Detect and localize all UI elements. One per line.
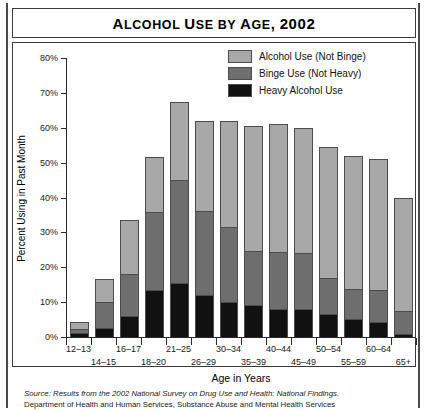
x-axis-tick-label: 16–17 xyxy=(116,344,141,354)
bar-slot xyxy=(92,58,117,337)
source-line-1: Source: Results from the 2002 National S… xyxy=(24,388,414,399)
bar-segment-alcohol-not-binge xyxy=(146,158,163,211)
y-axis-tick-label: 40% xyxy=(40,193,58,203)
bar[interactable] xyxy=(294,128,313,337)
bar-slot xyxy=(192,58,217,337)
bar-segment-binge-not-heavy xyxy=(171,180,188,283)
legend-swatch-heavy xyxy=(228,84,252,97)
bar-segment-heavy xyxy=(270,309,287,338)
bar-segment-heavy xyxy=(221,302,238,337)
x-axis-tick xyxy=(416,338,417,345)
legend-label: Binge Use (Not Heavy) xyxy=(259,68,361,79)
bar-segment-heavy xyxy=(320,314,337,337)
bar[interactable] xyxy=(95,279,114,337)
legend-item: Binge Use (Not Heavy) xyxy=(228,67,408,80)
bar-segment-heavy xyxy=(96,328,113,337)
bar[interactable] xyxy=(195,121,214,337)
bar-segment-alcohol-not-binge xyxy=(245,127,262,251)
bar-segment-alcohol-not-binge xyxy=(171,103,188,180)
bar-segment-binge-not-heavy xyxy=(196,211,213,295)
x-axis-tick-label: 21–25 xyxy=(166,344,191,354)
page-title: ALCOHOL USE BY AGE, 2002 xyxy=(113,15,316,32)
bar-segment-alcohol-not-binge xyxy=(196,122,213,211)
x-axis-labels-row-top: 12–1316–1721–2530–3440–4450–5460–64 xyxy=(66,344,416,356)
bar-segment-heavy xyxy=(121,316,138,337)
x-axis-tick-label: 55–59 xyxy=(341,357,366,367)
bar[interactable] xyxy=(220,121,239,337)
bar-segment-heavy xyxy=(295,309,312,338)
bar-segment-binge-not-heavy xyxy=(320,278,337,313)
legend-label: Heavy Alcohol Use xyxy=(259,85,343,96)
bar-segment-alcohol-not-binge xyxy=(270,125,287,252)
bar-slot xyxy=(167,58,192,337)
bar-segment-binge-not-heavy xyxy=(370,290,387,322)
y-axis-tick-label: 70% xyxy=(40,88,58,98)
bar-segment-heavy xyxy=(370,322,387,337)
y-axis-tick-label: 80% xyxy=(40,53,58,63)
legend-item: Alcohol Use (Not Binge) xyxy=(228,50,408,63)
bar-segment-binge-not-heavy xyxy=(221,227,238,302)
bar-segment-alcohol-not-binge xyxy=(121,221,138,274)
bar-slot xyxy=(117,58,142,337)
x-axis-tick-label: 60–64 xyxy=(366,344,391,354)
bar-segment-alcohol-not-binge xyxy=(370,160,387,290)
x-axis-tick-label: 18–20 xyxy=(141,357,166,367)
y-axis-tick-label: 50% xyxy=(40,158,58,168)
x-axis-title: Age in Years xyxy=(66,372,416,384)
legend: Alcohol Use (Not Binge)Binge Use (Not He… xyxy=(228,50,408,101)
title-bar: ALCOHOL USE BY AGE, 2002 xyxy=(12,8,416,38)
bar-segment-heavy xyxy=(245,305,262,337)
bar-slot xyxy=(142,58,167,337)
bar[interactable] xyxy=(344,156,363,337)
y-axis-tick-label: 10% xyxy=(40,297,58,307)
bar-segment-binge-not-heavy xyxy=(345,289,362,319)
legend-swatch-binge_not_heavy xyxy=(228,67,252,80)
bar-segment-binge-not-heavy xyxy=(121,274,138,316)
bar[interactable] xyxy=(269,124,288,337)
x-axis-tick-label: 12–13 xyxy=(66,344,91,354)
bar-segment-binge-not-heavy xyxy=(270,252,287,308)
bar-segment-binge-not-heavy xyxy=(245,251,262,305)
x-axis-tick-label: 26–29 xyxy=(191,357,216,367)
bar-segment-alcohol-not-binge xyxy=(96,280,113,301)
y-axis-tick-label: 30% xyxy=(40,227,58,237)
legend-item: Heavy Alcohol Use xyxy=(228,84,408,97)
bar[interactable] xyxy=(170,102,189,337)
x-axis-tick-label: 14–15 xyxy=(91,357,116,367)
bar-slot xyxy=(67,58,92,337)
bar-segment-alcohol-not-binge xyxy=(295,129,312,253)
bar[interactable] xyxy=(70,322,89,337)
bar-segment-binge-not-heavy xyxy=(295,253,312,309)
bar-segment-heavy xyxy=(71,333,88,337)
bar-segment-binge-not-heavy xyxy=(395,311,412,334)
x-axis-labels-row-bottom: 14–1518–2026–2935–3945–4955–5965+ xyxy=(66,357,416,369)
bar-segment-heavy xyxy=(345,319,362,337)
bar-segment-binge-not-heavy xyxy=(146,212,163,290)
y-axis-tick-label: 60% xyxy=(40,123,58,133)
bar-segment-alcohol-not-binge xyxy=(221,122,238,227)
bar[interactable] xyxy=(319,147,338,337)
legend-swatch-alcohol_not_binge xyxy=(228,50,252,63)
bar-segment-heavy xyxy=(395,334,412,337)
source-line-2: Department of Health and Human Services,… xyxy=(24,399,414,410)
bar[interactable] xyxy=(244,126,263,337)
bar-segment-alcohol-not-binge xyxy=(395,199,412,312)
y-axis-title: Percent Using in Past Month xyxy=(14,58,28,338)
x-axis-tick-label: 35–39 xyxy=(241,357,266,367)
bar[interactable] xyxy=(120,220,139,337)
x-axis-tick-label: 30–34 xyxy=(216,344,241,354)
y-axis-tick-label: 0% xyxy=(45,332,58,342)
y-axis-title-text: Percent Using in Past Month xyxy=(16,135,27,262)
x-axis-tick-label: 45–49 xyxy=(291,357,316,367)
bar[interactable] xyxy=(145,157,164,337)
bar-segment-heavy xyxy=(196,295,213,337)
x-axis-tick-label: 50–54 xyxy=(316,344,341,354)
bar[interactable] xyxy=(394,198,413,338)
legend-label: Alcohol Use (Not Binge) xyxy=(259,51,366,62)
bar-segment-alcohol-not-binge xyxy=(345,157,362,289)
y-axis-tick-label: 20% xyxy=(40,262,58,272)
x-axis-tick-label: 40–44 xyxy=(266,344,291,354)
source-note: Source: Results from the 2002 National S… xyxy=(24,388,414,411)
x-axis-tick-label: 65+ xyxy=(396,357,411,367)
bar[interactable] xyxy=(369,159,388,337)
